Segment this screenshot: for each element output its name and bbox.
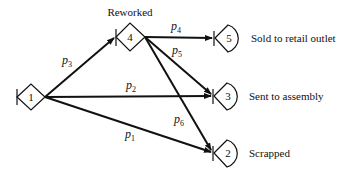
edge-4-to-5 (145, 37, 212, 38)
edge-4-to-3 (145, 37, 211, 94)
label-p4: p4 (170, 19, 181, 35)
caption-reworked: Reworked (107, 6, 153, 18)
node-1: 1 (17, 84, 45, 110)
label-p1: p1 (124, 127, 135, 143)
node-3: 3 (213, 83, 237, 110)
node-4: 4 (116, 23, 145, 51)
edge-1-to-3 (45, 96, 211, 97)
flow-diagram: 1 4 Reworked 5 Sold to retail outlet 3 S… (0, 0, 355, 177)
edge-1-to-2 (45, 97, 211, 152)
caption-sold-to-retail-outlet: Sold to retail outlet (251, 32, 336, 44)
svg-text:3: 3 (225, 90, 231, 102)
label-p3: p3 (61, 53, 72, 69)
svg-text:5: 5 (226, 32, 232, 44)
svg-text:2: 2 (225, 147, 231, 159)
node-2: 2 (213, 140, 237, 167)
caption-sent-to-assembly: Sent to assembly (249, 90, 324, 102)
edge-1-to-4 (45, 38, 114, 97)
label-p6: p6 (173, 112, 184, 128)
caption-scrapped: Scrapped (249, 147, 290, 159)
node-5: 5 (214, 25, 238, 52)
svg-text:4: 4 (127, 31, 133, 43)
label-p5: p5 (171, 43, 182, 59)
label-p2: p2 (125, 78, 136, 94)
svg-text:1: 1 (28, 91, 34, 103)
